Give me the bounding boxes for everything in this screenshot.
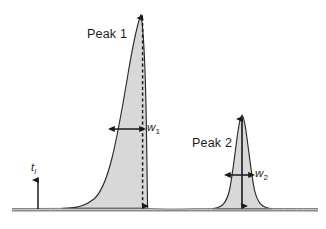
peak-2-width-subscript: 2 xyxy=(264,173,268,182)
peak-1-width-subscript: 1 xyxy=(156,127,160,136)
chromatogram-figure: Peak 1 Peak 2 w1 w2 tI xyxy=(0,0,326,229)
peak-1-width-symbol: w xyxy=(147,121,155,133)
peak-2-width-label: w2 xyxy=(255,168,268,180)
baseline-trace xyxy=(12,208,318,209)
peak-1-width-label: w1 xyxy=(147,122,160,134)
peak-1-label: Peak 1 xyxy=(87,28,127,41)
injection-time-label: tI xyxy=(31,162,36,173)
peak-2-label: Peak 2 xyxy=(192,137,232,150)
chromatogram-plot xyxy=(0,0,326,229)
peak-1-area xyxy=(62,15,148,209)
peak-2-width-symbol: w xyxy=(255,167,263,179)
